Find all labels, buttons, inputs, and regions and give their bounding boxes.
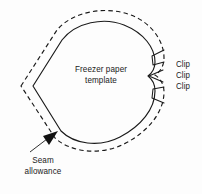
seam-leader-line: [30, 139, 47, 152]
template-label-line-2: template: [66, 75, 136, 86]
clip-labels-group: Clip Clip Clip: [176, 59, 190, 92]
seam-allowance-label: Seam allowance: [13, 155, 72, 177]
clip-label-3: Clip: [176, 81, 190, 92]
freezer-paper-template-label: Freezer paper template: [66, 64, 136, 86]
clip-label-1: Clip: [176, 59, 190, 70]
seam-label-line-1: Seam: [13, 155, 72, 166]
clip-label-2: Clip: [176, 70, 190, 81]
template-label-line-1: Freezer paper: [66, 64, 136, 75]
diagram-canvas: Freezer paper template Clip Clip Clip Se…: [0, 0, 202, 194]
seam-allowance-pointer: [30, 131, 58, 152]
seam-label-line-2: allowance: [13, 166, 72, 177]
